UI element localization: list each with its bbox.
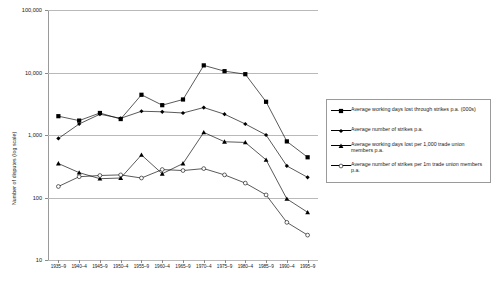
data-point	[306, 175, 310, 179]
data-point	[181, 111, 185, 115]
data-point	[264, 193, 268, 197]
x-tick-mark	[225, 260, 226, 263]
data-point	[181, 169, 185, 173]
data-point	[222, 69, 226, 73]
data-point	[56, 161, 61, 165]
legend-label: Average number of strikes per 1m trade u…	[351, 161, 487, 174]
legend-item[interactable]: Average number of strikes p.a.	[331, 126, 487, 134]
data-point	[56, 114, 60, 118]
legend-item[interactable]: Average number of strikes per 1m trade u…	[331, 161, 487, 174]
data-point	[243, 72, 247, 76]
x-tick-mark	[58, 260, 59, 263]
chart-container: Number of disputes (log scale) 101001,00…	[0, 0, 493, 281]
data-point	[243, 181, 247, 185]
data-point	[160, 103, 164, 107]
data-point	[77, 170, 82, 174]
data-point	[98, 174, 102, 178]
data-point	[202, 167, 206, 171]
data-point	[139, 109, 143, 113]
x-tick-mark	[79, 260, 80, 263]
data-point	[284, 196, 289, 200]
chart-legend: Average working days lost through strike…	[326, 99, 491, 183]
data-point	[339, 143, 344, 147]
data-point	[140, 176, 144, 180]
data-point	[181, 97, 185, 101]
x-tick-mark	[183, 260, 184, 263]
y-tick-label: 10	[6, 257, 42, 263]
x-tick-label: 1995–9	[295, 264, 321, 269]
legend-item[interactable]: Average working days lost through strike…	[331, 106, 487, 114]
data-point	[202, 63, 206, 67]
data-point	[160, 110, 164, 114]
data-point	[223, 173, 227, 177]
data-point	[285, 220, 289, 224]
legend-marker-filled-square-icon	[331, 107, 351, 114]
data-point	[119, 173, 123, 177]
data-point	[264, 100, 268, 104]
series-layer	[48, 10, 318, 260]
data-point	[56, 136, 60, 140]
data-point	[264, 133, 268, 137]
data-point	[181, 161, 186, 165]
x-tick-mark	[121, 260, 122, 263]
plot-area	[48, 10, 318, 260]
legend-marker-filled-diamond-icon	[331, 127, 351, 134]
data-point	[243, 122, 247, 126]
data-point	[285, 164, 289, 168]
x-tick-mark	[245, 260, 246, 263]
y-tick-label: 1,000	[6, 132, 42, 138]
x-tick-mark	[141, 260, 142, 263]
data-point	[222, 112, 226, 116]
x-tick-mark	[266, 260, 267, 263]
legend-label: Average working days lost per 1,000 trad…	[351, 141, 487, 154]
x-tick-mark	[100, 260, 101, 263]
x-tick-mark	[308, 260, 309, 263]
data-point	[160, 168, 164, 172]
legend-label: Average working days lost through strike…	[351, 106, 487, 112]
x-tick-mark	[204, 260, 205, 263]
legend-marker-filled-triangle-icon	[331, 142, 351, 149]
series-line	[58, 169, 307, 236]
y-tick-label: 100,000	[6, 7, 42, 13]
legend-marker-open-circle-icon	[331, 162, 351, 169]
data-point	[285, 139, 289, 143]
legend-item[interactable]: Average working days lost per 1,000 trad…	[331, 141, 487, 154]
data-point	[306, 155, 310, 159]
data-point	[202, 105, 206, 109]
data-point	[201, 130, 206, 134]
data-point	[339, 164, 343, 168]
data-point	[306, 233, 310, 237]
y-tick-mark	[45, 260, 48, 261]
y-tick-label: 10,000	[6, 70, 42, 76]
y-tick-label: 100	[6, 195, 42, 201]
data-point	[339, 108, 343, 112]
data-point	[305, 210, 310, 214]
data-point	[56, 185, 60, 189]
data-point	[77, 175, 81, 179]
x-tick-mark	[287, 260, 288, 263]
x-tick-mark	[162, 260, 163, 263]
data-point	[139, 93, 143, 97]
data-point	[339, 128, 343, 132]
data-point	[139, 153, 144, 157]
legend-label: Average number of strikes p.a.	[351, 126, 487, 132]
series-line	[58, 108, 307, 178]
